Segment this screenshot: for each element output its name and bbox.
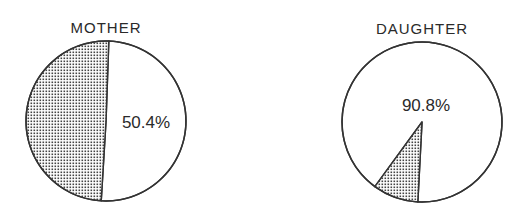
pie-chart-figure: MOTHER 50.4% DAUGHTER 90.8% xyxy=(0,0,526,208)
pie-title-daughter: DAUGHTER xyxy=(376,20,468,37)
pie-title-mother: MOTHER xyxy=(71,19,142,36)
slice-label-mother: 50.4% xyxy=(122,113,170,132)
pie-mother: MOTHER 50.4% xyxy=(26,19,186,201)
slice-mother-dotted xyxy=(26,41,109,201)
slice-label-daughter: 90.8% xyxy=(402,96,450,115)
pie-daughter: DAUGHTER 90.8% xyxy=(342,20,502,202)
